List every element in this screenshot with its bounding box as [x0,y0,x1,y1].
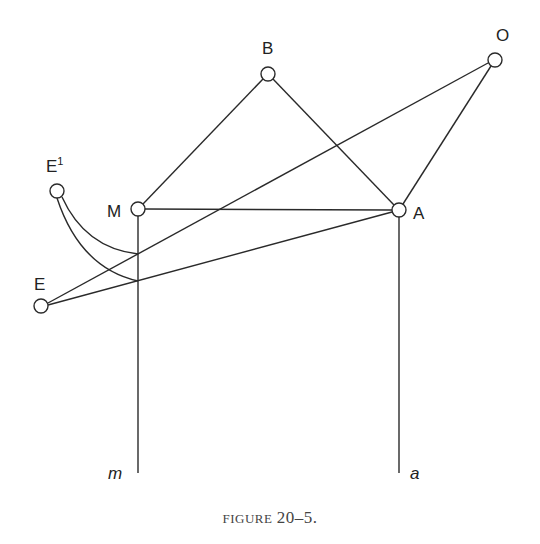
edge-m-b [143,79,263,204]
edge-e-a [48,212,392,305]
edge-m-a [145,209,392,210]
node-o [488,53,502,67]
label-e1: E1 [46,155,63,176]
diagram-canvas: B O E1 M A E m a [0,0,540,544]
node-a [392,203,406,217]
node-e1 [50,184,64,198]
figure-caption: FIGURE 20–5. [0,508,540,528]
edge-e-o [48,63,488,303]
label-line-m: m [108,464,122,483]
edge-a-o [403,66,491,204]
node-b [261,67,275,81]
label-e: E [34,275,45,294]
node-e [34,299,48,313]
edge-b-a [273,79,394,205]
label-e1-base: E [46,157,57,176]
caption-word: FIGURE [223,511,273,526]
label-b: B [262,39,273,58]
label-o: O [496,26,509,45]
label-m: M [107,202,121,221]
label-a: A [413,204,425,223]
curve-e1-upper [62,197,138,254]
label-e1-superscript: 1 [57,155,63,167]
label-line-a: a [410,464,419,483]
node-m [131,202,145,216]
caption-number: 20–5. [277,508,318,527]
